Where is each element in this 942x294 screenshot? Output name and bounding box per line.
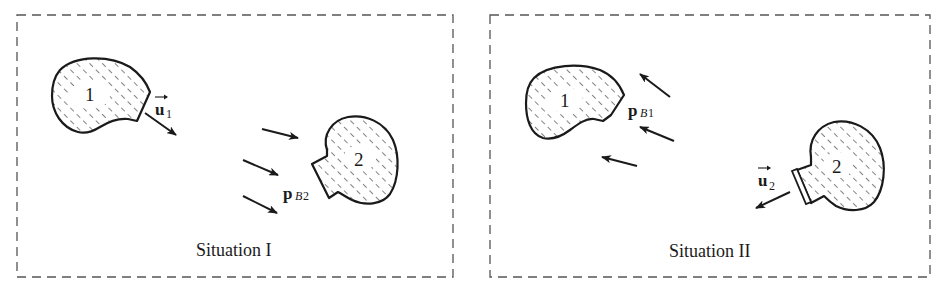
svg-text:2: 2 [303,189,309,203]
svg-text:u: u [155,100,164,119]
svg-text:B: B [295,189,303,203]
body-1: 1 [52,58,150,132]
caption-situation-1: Situation I [196,240,272,260]
body-2-label: 2 [832,156,842,177]
caption-situation-2: Situation II [669,241,751,261]
panel-situation-1: 1 u 1 p B 2 2 Situation I [17,15,453,277]
velocity-label-u1: u 1 [155,95,172,122]
body-2: 2 [792,121,884,210]
svg-text:2: 2 [769,179,775,193]
svg-text:B: B [640,106,648,120]
body-2: 2 [312,116,398,203]
panel-situation-2: 1 p B 1 2 u 2 Situation II [490,15,930,277]
body-1: 1 [526,66,624,139]
velocity-arrow-u2 [756,192,790,208]
momentum-label-pB2: p B 2 [283,184,309,203]
svg-text:1: 1 [166,107,172,121]
body-2-label: 2 [354,149,364,170]
svg-text:1: 1 [648,106,654,120]
svg-text:p: p [283,184,292,203]
svg-text:p: p [628,101,637,120]
svg-text:u: u [758,171,767,190]
momentum-label-pB1: p B 1 [628,101,654,120]
velocity-label-u2: u 2 [758,166,775,194]
body-1-label: 1 [560,90,570,111]
diagram-canvas: 1 u 1 p B 2 2 Situation I [0,0,942,294]
body-1-label: 1 [85,84,95,105]
